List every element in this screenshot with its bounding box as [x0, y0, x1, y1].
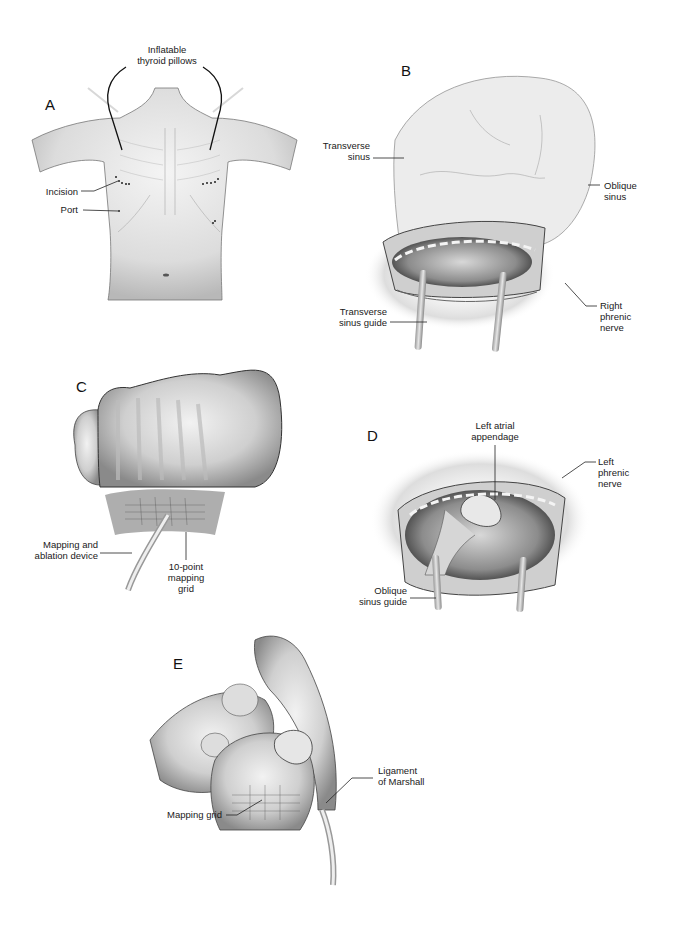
label-right-phrenic-nerve: Right phrenic nerve: [600, 300, 631, 333]
label-left-atrial-appendage: Left atrial appendage: [458, 420, 532, 442]
panel-e-heart: [150, 636, 373, 885]
label-transverse-sinus-guide: Transverse sinus guide: [325, 306, 387, 328]
label-10-point-mapping-grid: 10-point mapping grid: [160, 561, 212, 594]
label-inflatable-thyroid-pillows: Inflatable thyroid pillows: [130, 44, 204, 66]
panel-letter-b: B: [401, 62, 411, 79]
label-transverse-sinus: Transverse sinus: [310, 140, 370, 162]
panel-a-torso: [32, 67, 297, 300]
label-left-phrenic-nerve: Left phrenic nerve: [598, 456, 629, 489]
label-oblique-sinus-guide: Oblique sinus guide: [345, 585, 407, 607]
panel-letter-a: A: [45, 96, 55, 113]
panel-letter-c: C: [76, 378, 87, 395]
panel-b-pericardium: [365, 76, 600, 352]
label-oblique-sinus: Oblique sinus: [604, 180, 637, 202]
panel-letter-d: D: [367, 427, 378, 444]
panel-letter-e: E: [173, 655, 183, 672]
panel-c-heart: [74, 370, 282, 590]
label-mapping-and-ablation-device: Mapping and ablation device: [20, 539, 98, 561]
label-incision: Incision: [30, 186, 78, 197]
label-ligament-of-marshall: Ligament of Marshall: [378, 765, 424, 787]
label-port: Port: [40, 204, 78, 215]
label-mapping-grid: Mapping grid: [140, 809, 222, 820]
